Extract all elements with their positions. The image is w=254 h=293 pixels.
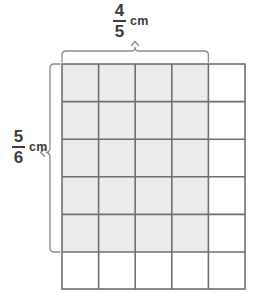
figure-canvas: 4 5 cm 5 6 cm <box>0 0 254 293</box>
width-dimension-label: 4 5 cm <box>113 2 148 40</box>
height-fraction: 5 6 <box>12 128 25 166</box>
width-fraction: 4 5 <box>113 2 126 40</box>
width-fraction-numerator: 4 <box>114 2 125 19</box>
height-fraction-numerator: 5 <box>13 128 24 145</box>
width-fraction-denominator: 5 <box>114 23 125 40</box>
height-fraction-denominator: 6 <box>13 149 24 166</box>
width-unit-label: cm <box>130 14 148 28</box>
height-unit-label: cm <box>29 140 47 154</box>
height-dimension-label: 5 6 cm <box>12 128 47 166</box>
width-brace <box>62 42 208 63</box>
